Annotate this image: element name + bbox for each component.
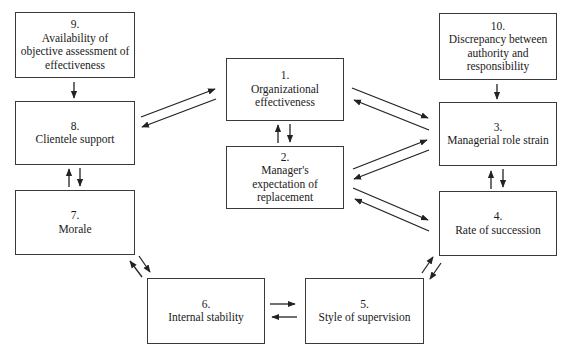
- node-label: Managerial role strain: [447, 134, 549, 148]
- arrow-1-to-3: [352, 88, 428, 118]
- node-label: Morale: [58, 223, 91, 237]
- node-8-clientele-support: 8. Clientele support: [15, 101, 135, 165]
- node-number: 2.: [281, 151, 290, 165]
- node-10-discrepancy-authority-responsibility: 10. Discrepancy between authority and re…: [439, 13, 557, 80]
- arrow-2-to-4: [353, 188, 428, 220]
- node-number: 5.: [360, 298, 369, 312]
- node-4-rate-of-succession: 4. Rate of succession: [439, 191, 557, 256]
- node-label: Discrepancy between authority and respon…: [449, 33, 548, 74]
- node-1-organizational-effectiveness: 1. Organizational effectiveness: [226, 58, 344, 121]
- node-label: Clientele support: [36, 133, 115, 147]
- node-number: 4.: [494, 210, 503, 224]
- node-9-availability-of-objective-assessment: 9. Availability of objective assessment …: [15, 12, 135, 78]
- arrow-4-to-5: [430, 263, 441, 279]
- node-3-managerial-role-strain: 3. Managerial role strain: [439, 102, 557, 166]
- node-number: 6.: [202, 298, 211, 312]
- node-label: Internal stability: [168, 311, 244, 325]
- node-number: 9.: [71, 18, 80, 32]
- node-label: Style of supervision: [319, 311, 411, 325]
- node-5-style-of-supervision: 5. Style of supervision: [305, 278, 424, 344]
- node-2-managers-expectation-of-replacement: 2. Manager's expectation of replacement: [226, 146, 344, 209]
- node-label: Rate of succession: [455, 224, 541, 238]
- arrow-6-to-7: [130, 261, 142, 277]
- node-label: Manager's expectation of replacement: [252, 164, 317, 205]
- node-label: Organizational effectiveness: [251, 83, 319, 110]
- arrow-3-to-1: [354, 100, 429, 130]
- node-number: 7.: [71, 209, 80, 223]
- node-6-internal-stability: 6. Internal stability: [147, 278, 265, 344]
- node-number: 3.: [494, 121, 503, 135]
- arrow-7-to-6: [139, 256, 150, 272]
- arrow-5-to-4: [422, 257, 433, 273]
- node-label: Availability of objective assessment of …: [21, 32, 130, 73]
- node-number: 8.: [71, 120, 80, 134]
- node-number: 10.: [491, 20, 505, 34]
- node-number: 1.: [281, 69, 290, 83]
- node-7-morale: 7. Morale: [15, 190, 135, 255]
